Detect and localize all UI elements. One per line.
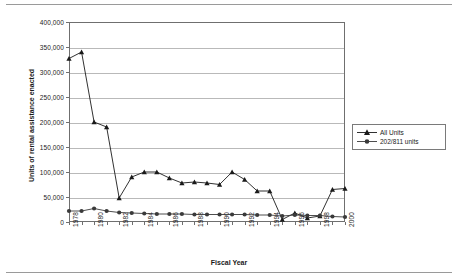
- data-point-marker: [280, 214, 284, 218]
- data-point-marker: [167, 212, 171, 216]
- data-point-marker: [305, 213, 309, 217]
- data-point-marker: [330, 214, 334, 218]
- data-point-marker: [205, 212, 209, 216]
- data-point-marker: [230, 212, 234, 216]
- data-point-marker: [104, 124, 109, 129]
- legend-label-all-units: All Units: [378, 129, 404, 136]
- data-point-marker: [180, 212, 184, 216]
- data-point-marker: [242, 177, 247, 182]
- legend-item-202-811-units[interactable]: 202/811 units: [356, 137, 442, 146]
- data-point-marker: [67, 209, 71, 213]
- data-point-marker: [217, 212, 221, 216]
- data-point-marker: [293, 213, 297, 217]
- data-point-marker: [167, 175, 172, 180]
- series-triangle: [66, 49, 347, 221]
- data-point-marker: [192, 212, 196, 216]
- data-point-marker: [155, 212, 159, 216]
- data-point-marker: [117, 195, 122, 200]
- data-point-marker: [318, 213, 322, 217]
- legend-item-all-units[interactable]: All Units: [356, 128, 442, 137]
- data-point-marker: [255, 213, 259, 217]
- data-point-marker: [343, 215, 347, 219]
- figure-container: 050,000100,000150,000200,000250,000300,0…: [0, 0, 458, 280]
- data-point-marker: [91, 119, 96, 124]
- data-point-marker: [243, 212, 247, 216]
- data-point-marker: [142, 211, 146, 215]
- data-point-marker: [268, 213, 272, 217]
- data-point-marker: [92, 206, 96, 210]
- plot-wrapper: 050,000100,000150,000200,000250,000300,0…: [0, 0, 458, 280]
- data-point-marker: [79, 209, 83, 213]
- data-point-marker: [105, 209, 109, 213]
- data-point-marker: [117, 210, 121, 214]
- data-point-marker: [229, 169, 234, 174]
- data-point-marker: [129, 174, 134, 179]
- data-point-marker: [79, 49, 84, 54]
- triangle-marker-icon: [356, 128, 378, 137]
- legend-label-202-811-units: 202/811 units: [378, 138, 419, 145]
- chart-legend: All Units 202/811 units: [352, 124, 446, 150]
- circle-marker-icon: [356, 137, 378, 146]
- data-point-marker: [130, 211, 134, 215]
- data-point-marker: [66, 56, 71, 61]
